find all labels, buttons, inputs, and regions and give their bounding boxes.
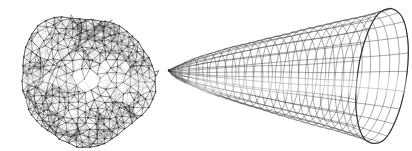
wireframe-figure-svg [0,0,412,151]
figure-canvas [0,0,412,151]
